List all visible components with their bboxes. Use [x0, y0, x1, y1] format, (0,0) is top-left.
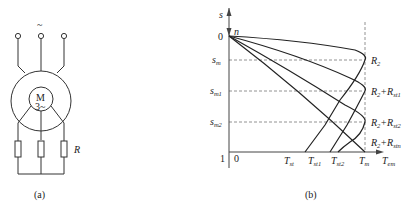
curve-label-r2-rstn: R2+Rstn [370, 137, 401, 149]
terminal-2 [38, 33, 43, 38]
curves [229, 36, 366, 152]
x-origin-label: 0 [234, 153, 239, 164]
y-tick-sm: sm [212, 54, 221, 66]
x-tick-tst1: Tst1 [308, 155, 321, 167]
n-axis-label: n [234, 26, 239, 37]
terminal-1 [15, 33, 20, 38]
caption-a: (a) [34, 189, 45, 201]
y-tick-sm2: sm2 [210, 116, 223, 128]
curve-label-r2-rst1: R2+Rst1 [370, 86, 401, 98]
curve-label-r2-rst2: R2+Rst2 [370, 117, 402, 129]
s-axis-arrow-up-icon [227, 8, 232, 16]
terminal-3 [61, 33, 66, 38]
curve-label-r2: R2 [370, 55, 381, 67]
n-axis-arrow-down-icon [227, 28, 232, 36]
resistor-3 [61, 141, 67, 157]
origin-label: 0 [218, 31, 223, 42]
resistor-label: R [73, 144, 80, 155]
diagram-canvas: ~ M 3~ R (a) s [0, 0, 408, 212]
curve-r2 [229, 36, 366, 152]
y-tick-sm1: sm1 [210, 85, 222, 97]
x-tick-tem: Tem [382, 155, 395, 167]
resistor-1 [15, 141, 21, 157]
y-bottom-label: 1 [220, 153, 225, 164]
x-axis-arrow-icon [376, 150, 384, 155]
x-tick-tm: Tm [359, 155, 370, 167]
s-axis-label: s [219, 9, 223, 20]
ac-supply-symbol: ~ [37, 19, 43, 30]
x-tick-tst2: Tst2 [331, 155, 345, 167]
motor-label-3phase: 3~ [35, 101, 46, 112]
resistor-2 [38, 141, 44, 157]
x-tick-tst: Tst [284, 155, 294, 167]
caption-b: (b) [305, 189, 317, 201]
figure-b-chart [227, 8, 385, 168]
